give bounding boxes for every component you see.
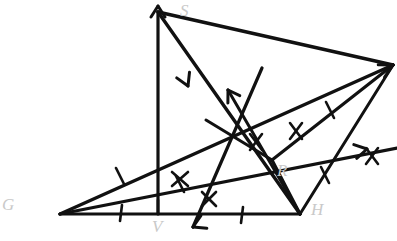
side-S-to-right — [158, 12, 393, 65]
tick-baseline-right — [241, 207, 243, 223]
vertex-label-H: H — [311, 201, 323, 218]
segment-up-left-ray — [228, 90, 300, 214]
segment-group — [60, 12, 397, 227]
tick-baseline-left — [120, 205, 122, 221]
ray-G-mid — [60, 148, 397, 214]
vertex-label-S: S — [180, 2, 189, 19]
arrow-down-on-S-V — [177, 72, 195, 89]
geometry-figure: S G H R V — [0, 0, 397, 241]
vertex-label-V: V — [152, 218, 162, 235]
vertex-label-R: R — [277, 162, 287, 179]
ray-G-upper — [60, 65, 393, 214]
vertex-label-G: G — [2, 196, 14, 213]
figure-canvas — [0, 0, 397, 241]
tick-G-upper-ray — [116, 168, 124, 184]
